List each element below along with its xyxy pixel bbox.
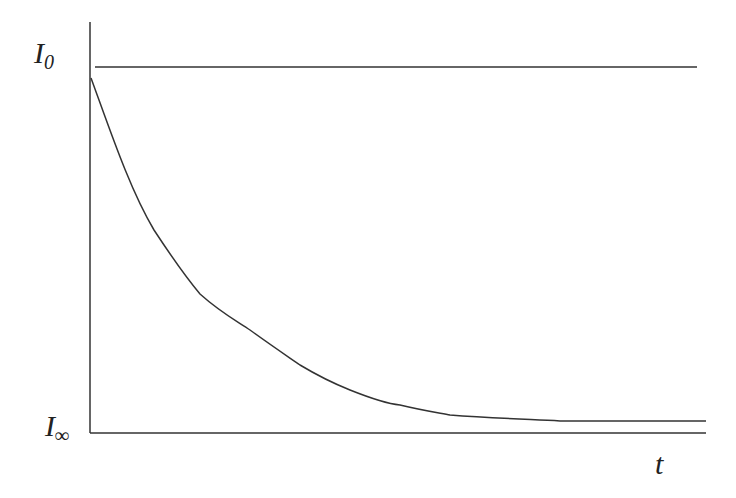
y-label-iinf: I∞ — [45, 409, 69, 443]
decay-chart — [0, 0, 736, 498]
x-axis-label: t — [655, 447, 663, 481]
decay-curve — [91, 78, 706, 421]
y-label-i0: I0 — [34, 36, 54, 70]
